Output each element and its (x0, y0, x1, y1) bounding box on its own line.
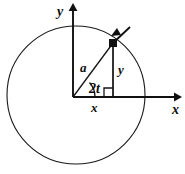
angle-label: 2t (88, 81, 101, 96)
radius-label: a (80, 60, 87, 75)
x-axis-arrowhead (174, 93, 182, 102)
figure-root: y x a 2t y x (0, 0, 185, 174)
figure-caption (0, 169, 185, 174)
right-angle-marker (104, 88, 113, 97)
y-axis-label: y (55, 4, 64, 19)
vertical-leg-label: y (116, 62, 124, 77)
horizontal-leg-label: x (90, 100, 98, 115)
tangent-direction-arrowhead (111, 28, 121, 36)
y-axis-arrowhead (69, 3, 78, 11)
circle-path (7, 26, 145, 164)
circle-diagram: y x a 2t y x (0, 0, 185, 174)
x-axis-label: x (171, 102, 179, 117)
